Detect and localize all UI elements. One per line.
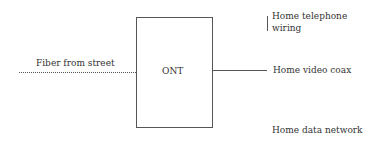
fiber-label: Fiber from street [36, 58, 115, 69]
telephone-label-line2: wiring [272, 23, 301, 34]
ont-label: ONT [162, 66, 183, 77]
data-network-label: Home data network [272, 125, 363, 136]
ont-diagram: Fiber from street ONT Home telephone wir… [0, 0, 376, 150]
coax-label: Home video coax [273, 65, 351, 76]
telephone-label-line1: Home telephone [272, 11, 347, 22]
